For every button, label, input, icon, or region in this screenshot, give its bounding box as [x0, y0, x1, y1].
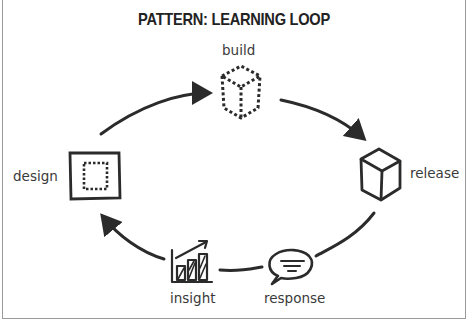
speech-bubble-icon [269, 250, 312, 284]
arrow-design-to-build [101, 93, 207, 134]
node-label-build: build [222, 42, 255, 58]
bar-chart-trend-icon [172, 241, 212, 282]
node-label-design: design [13, 168, 58, 184]
node-label-insight: insight [170, 290, 216, 306]
arrow-build-to-release [281, 100, 362, 137]
cube-icon [361, 149, 400, 200]
connector-response-to-insight [220, 267, 262, 271]
dashed-cube-icon [222, 66, 260, 118]
connector-release-to-response [316, 213, 374, 256]
node-label-release: release [410, 165, 459, 181]
arrow-insight-to-design [104, 218, 164, 259]
node-label-response: response [264, 290, 325, 306]
square-with-dashed-inner-square-icon [70, 153, 120, 199]
